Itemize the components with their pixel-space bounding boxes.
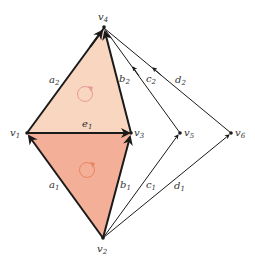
vertex-label-v5: v5: [184, 127, 195, 140]
edge-label-b1: b1: [120, 179, 131, 192]
edge-label-d2: d2: [175, 74, 186, 87]
vertex-v1: [25, 131, 29, 135]
vertex-v4: [102, 25, 106, 29]
edge-label-b2: b2: [119, 73, 130, 86]
edge-label-c2: c2: [146, 73, 157, 86]
edge-label-c1: c1: [146, 179, 156, 192]
vertex-label-v2: v2: [97, 243, 108, 256]
vertex-v6: [229, 131, 233, 135]
edge-label-d1: d1: [174, 180, 185, 193]
vertex-label-v1: v1: [10, 127, 20, 140]
graph-diagram: v1 v2 v3 v4 v5 v6 a2 b2 c2 d2 e1 a1 b1 c…: [0, 0, 255, 262]
vertex-label-v3: v3: [134, 127, 145, 140]
edge-label-a2: a2: [49, 74, 60, 87]
vertex-v5: [178, 131, 182, 135]
vertex-v3: [129, 131, 133, 135]
edge-label-a1: a1: [49, 179, 59, 192]
vertex-v2: [101, 236, 105, 240]
edge-c2-arrow: [133, 67, 139, 76]
vertex-label-v4: v4: [98, 11, 108, 24]
edge-d2-arrow: [153, 68, 161, 75]
vertex-label-v6: v6: [235, 127, 246, 140]
lower-face: [27, 133, 131, 238]
